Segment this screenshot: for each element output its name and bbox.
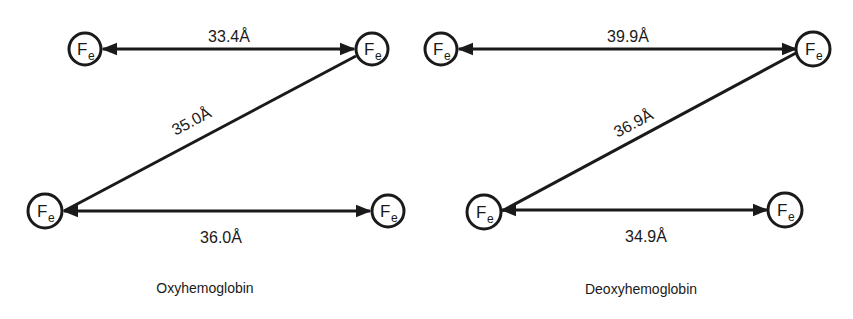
oxy-fe-atom-bottom-right: F e <box>372 195 404 227</box>
svg-text:F: F <box>77 40 87 59</box>
deoxy-diagonal-distance-label: 36.9Å <box>610 105 656 141</box>
deoxy-bottom-distance-label: 34.9Å <box>625 227 667 245</box>
deoxy-fe-atom-top-right: F e <box>796 32 830 66</box>
svg-text:e: e <box>88 49 95 63</box>
svg-text:F: F <box>805 40 815 59</box>
svg-text:e: e <box>391 211 398 225</box>
oxy-diagonal-distance-label: 35.0Å <box>168 103 214 139</box>
deoxy-fe-atom-bottom-left: F e <box>467 195 501 229</box>
deoxy-fe-atom-bottom-right: F e <box>768 193 802 227</box>
oxyhemoglobin-caption: Oxyhemoglobin <box>156 280 253 296</box>
svg-text:e: e <box>48 211 55 225</box>
oxy-bottom-distance-label: 36.0Å <box>200 228 242 246</box>
svg-text:F: F <box>380 202 390 221</box>
svg-text:F: F <box>37 202 47 221</box>
svg-text:F: F <box>433 40 443 59</box>
oxyhemoglobin-diagram: F e F e F e F e 33.4Å 35.0Å 36.0Å Oxyhem… <box>28 27 404 296</box>
oxy-top-distance-label: 33.4Å <box>208 27 250 45</box>
oxy-fe-atom-top-left: F e <box>69 33 101 65</box>
svg-text:e: e <box>375 49 382 63</box>
svg-text:F: F <box>364 40 374 59</box>
deoxy-fe-atom-top-left: F e <box>425 33 457 65</box>
svg-text:e: e <box>816 49 823 63</box>
svg-text:F: F <box>476 203 486 222</box>
oxy-fe-atom-top-right: F e <box>356 33 388 65</box>
oxy-fe-atom-bottom-left: F e <box>28 194 62 228</box>
deoxy-top-distance-label: 39.9Å <box>607 27 649 45</box>
oxy-diagonal-distance-line <box>64 56 356 211</box>
svg-text:F: F <box>777 201 787 220</box>
deoxyhemoglobin-diagram: F e F e F e F e 39.9Å 36.9Å 34.9Å Deoxyh… <box>425 27 830 297</box>
hemoglobin-iron-distance-diagram: F e F e F e F e 33.4Å 35.0Å 36.0Å Oxyhem… <box>0 0 853 319</box>
svg-text:e: e <box>487 212 494 226</box>
svg-text:e: e <box>444 49 451 63</box>
deoxyhemoglobin-caption: Deoxyhemoglobin <box>585 281 697 297</box>
svg-text:e: e <box>788 210 795 224</box>
deoxy-diagonal-distance-line <box>502 53 796 211</box>
